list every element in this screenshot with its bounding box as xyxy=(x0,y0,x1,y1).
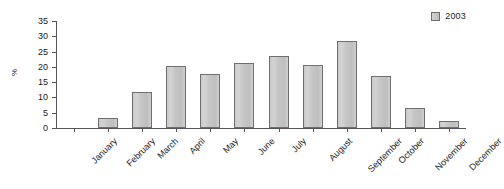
x-axis-label-march: March xyxy=(156,136,181,161)
x-axis-tick-mark xyxy=(142,128,143,132)
x-axis-label-july: July xyxy=(289,136,307,154)
x-axis-label-february: February xyxy=(125,136,158,169)
x-axis-label-june: June xyxy=(256,136,277,157)
x-axis-tick-mark xyxy=(347,128,348,132)
x-axis-tick-mark xyxy=(279,128,280,132)
x-axis-label-january: January xyxy=(89,136,119,166)
x-axis-tick-mark xyxy=(449,128,450,132)
x-axis-tick-mark xyxy=(108,128,109,132)
x-axis-label-august: August xyxy=(327,136,354,163)
x-axis-label-april: April xyxy=(188,136,208,156)
x-axis-tick-mark xyxy=(176,128,177,132)
x-axis-tick-mark xyxy=(313,128,314,132)
x-axis-tick-mark xyxy=(244,128,245,132)
x-axis-tick-mark xyxy=(415,128,416,132)
x-axis-tick-mark xyxy=(381,128,382,132)
x-axis-label-november: November xyxy=(433,136,469,172)
x-axis-tick-mark xyxy=(74,128,75,132)
x-axis-label-december: December xyxy=(467,136,503,172)
x-axis-label-may: May xyxy=(221,136,240,155)
x-axis-tick-mark xyxy=(210,128,211,132)
